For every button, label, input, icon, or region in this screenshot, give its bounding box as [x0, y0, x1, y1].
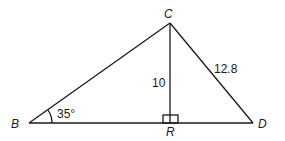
vertex-label-c: C [164, 8, 173, 20]
segment-bc [29, 23, 170, 123]
length-label-cd: 12.8 [214, 63, 237, 75]
vertex-label-d: D [258, 118, 267, 130]
angle-b-arc [48, 110, 52, 123]
vertex-label-b: B [11, 118, 19, 130]
angle-label-b: 35° [57, 108, 75, 120]
vertex-label-r: R [166, 126, 175, 138]
triangle-diagram [0, 0, 285, 141]
segment-cd [170, 23, 253, 123]
length-label-cr: 10 [152, 77, 165, 89]
